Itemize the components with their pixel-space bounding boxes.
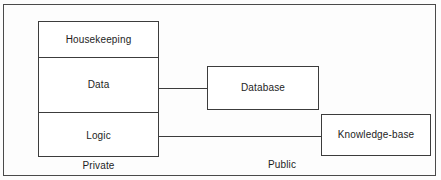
private-stack: Housekeeping Data Logic — [38, 21, 159, 157]
block-logic-label: Logic — [86, 131, 111, 141]
block-knowledge-base-label: Knowledge-base — [338, 130, 415, 140]
block-knowledge-base[interactable]: Knowledge-base — [321, 114, 431, 156]
block-housekeeping-label: Housekeeping — [66, 35, 132, 45]
block-database[interactable]: Database — [207, 66, 319, 110]
block-data-label: Data — [88, 80, 110, 90]
diagram-screenshot: Housekeeping Data Logic Database Knowled… — [0, 0, 441, 180]
connector-data-to-database — [159, 88, 207, 89]
block-housekeeping[interactable]: Housekeeping — [39, 22, 158, 58]
block-logic[interactable]: Logic — [39, 113, 158, 158]
block-data[interactable]: Data — [39, 58, 158, 113]
zone-label-public: Public — [232, 160, 332, 170]
zone-label-private: Private — [38, 161, 159, 171]
connector-logic-to-knowledge-base — [159, 136, 321, 137]
block-database-label: Database — [241, 83, 285, 93]
